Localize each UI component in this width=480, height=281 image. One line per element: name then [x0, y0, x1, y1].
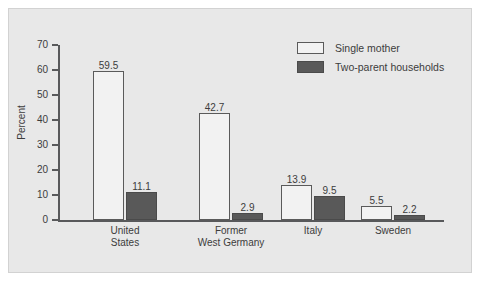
x-axis-line [58, 220, 444, 222]
bar-value-label: 2.9 [241, 202, 255, 213]
chart-legend: Single mother Two-parent households [297, 38, 444, 76]
legend-item-single-mother: Single mother [297, 38, 444, 57]
y-tick-label-70: 70 [9, 40, 48, 50]
y-tick-label-10: 10 [9, 190, 48, 200]
bar-value-label: 11.1 [132, 181, 151, 192]
y-tick-0 [52, 219, 58, 221]
legend-swatch-single-mother [297, 42, 324, 54]
y-tick-40 [52, 119, 58, 121]
chart-figure: Percent 010203040506070 59.511.142.72.91… [8, 8, 472, 273]
bar-former-west-germany-single-mother: 42.7 [199, 113, 230, 220]
plot-area: Percent 010203040506070 59.511.142.72.91… [9, 9, 471, 272]
bar-italy-single-mother: 13.9 [281, 185, 312, 220]
legend-item-two-parent-households: Two-parent households [297, 57, 444, 76]
legend-label-single-mother: Single mother [335, 42, 400, 54]
bar-value-label: 59.5 [99, 60, 118, 71]
y-tick-label-40: 40 [9, 115, 48, 125]
y-tick-30 [52, 144, 58, 146]
legend-label-two-parent-households: Two-parent households [335, 61, 444, 73]
bar-value-label: 2.2 [403, 204, 417, 215]
bar-former-west-germany-two-parent-households: 2.9 [232, 213, 263, 220]
y-tick-label-50: 50 [9, 90, 48, 100]
bar-value-label: 13.9 [287, 174, 306, 185]
legend-swatch-two-parent-households [297, 61, 324, 73]
y-tick-label-60: 60 [9, 65, 48, 75]
y-tick-50 [52, 94, 58, 96]
bar-value-label: 9.5 [323, 185, 337, 196]
y-tick-70 [52, 44, 58, 46]
bar-sweden-two-parent-households: 2.2 [394, 215, 425, 221]
bar-value-label: 5.5 [370, 195, 384, 206]
y-tick-60 [52, 69, 58, 71]
y-tick-label-20: 20 [9, 165, 48, 175]
bar-united-states-single-mother: 59.5 [93, 71, 124, 220]
y-tick-label-30: 30 [9, 140, 48, 150]
bar-united-states-two-parent-households: 11.1 [126, 192, 157, 220]
bar-italy-two-parent-households: 9.5 [314, 196, 345, 220]
bar-value-label: 42.7 [205, 102, 224, 113]
bar-sweden-single-mother: 5.5 [361, 206, 392, 220]
category-label-sweden: Sweden [333, 225, 453, 237]
category-label-united-states: United States [65, 225, 185, 249]
y-axis-line [58, 45, 60, 221]
y-tick-20 [52, 169, 58, 171]
y-tick-label-0: 0 [9, 215, 48, 225]
y-tick-10 [52, 194, 58, 196]
